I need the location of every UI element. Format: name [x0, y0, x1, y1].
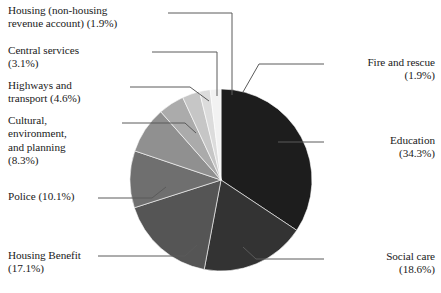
leader-line-fire [243, 64, 324, 92]
slice-label-fire-and-rescue: Fire and rescue (1.9%) [331, 56, 435, 83]
slice-label-social-care: Social care (18.6%) [331, 250, 435, 277]
pie-chart-figure: Housing (non-housing revenue account) (1… [0, 0, 441, 293]
slice-label-education: Education (34.3%) [331, 134, 435, 161]
leader-line-housing-nhra [168, 13, 232, 95]
slice-label-police: Police (10.1%) [8, 190, 148, 203]
slice-label-central-services: Central services (3.1%) [8, 44, 158, 71]
slice-label-housing-benefit: Housing Benefit (17.1%) [8, 249, 148, 276]
leader-line-central-services [152, 52, 217, 96]
pie-slice-group [130, 89, 312, 271]
slice-label-housing-non-housing-revenue-account: Housing (non-housing revenue account) (1… [8, 4, 168, 31]
slice-label-highways-and-transport: Highways and transport (4.6%) [8, 79, 158, 106]
slice-label-cultural-environment-and-planning: Cultural, environment, and planning (8.3… [8, 114, 128, 168]
